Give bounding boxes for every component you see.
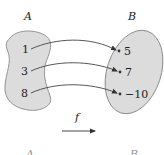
- set-b-element-2: 7: [125, 66, 132, 79]
- set-a-element-3: 8: [21, 87, 28, 100]
- function-label: f: [74, 111, 81, 124]
- set-a-element-2: 3: [21, 65, 28, 78]
- bottom-label-b: B: [129, 148, 138, 155]
- function-mapping-diagram: A B 1 3 8 5 7 −10 f A B: [0, 0, 164, 155]
- set-b-dot-1: [118, 50, 121, 53]
- set-b-element-3: −10: [125, 88, 148, 101]
- set-b-label: B: [127, 10, 136, 23]
- set-a-label: A: [23, 10, 32, 23]
- bottom-label-a: A: [25, 148, 34, 155]
- set-b-element-1: 5: [124, 45, 131, 58]
- set-a-element-1: 1: [22, 43, 29, 56]
- set-b-dot-2: [119, 71, 122, 74]
- set-b-dot-3: [119, 93, 122, 96]
